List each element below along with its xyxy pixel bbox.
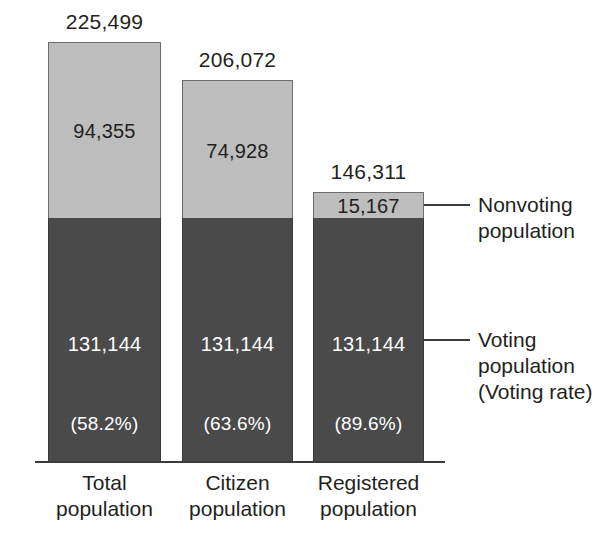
x-axis-line [35, 461, 445, 463]
bar-label-voting: 131,144 [314, 334, 423, 354]
bar-label-nonvoting: 74,928 [183, 141, 292, 161]
legend-leader-line-voting [424, 339, 470, 341]
bar-label-voting: 131,144 [183, 334, 292, 354]
legend-leader-line-nonvoting [424, 204, 470, 206]
bar-label-voting-rate: (58.2%) [49, 414, 160, 433]
stacked-bar-chart: 94,355 131,144 (58.2%) 225,499 Total pop… [0, 0, 616, 550]
bar-segment-voting[interactable]: 131,144 (58.2%) [48, 218, 161, 462]
category-label-line2: population [166, 496, 309, 522]
bar-segment-nonvoting[interactable]: 74,928 [182, 80, 293, 218]
bar-label-voting: 131,144 [49, 334, 160, 354]
bar-label-total: 146,311 [313, 161, 424, 182]
bar-segment-nonvoting[interactable]: 15,167 [313, 192, 424, 218]
bar-label-total: 225,499 [48, 11, 161, 32]
category-label-citizen-population: Citizen population [166, 470, 309, 522]
category-label-total-population: Total population [33, 470, 176, 522]
legend-label-voting-line3: (Voting rate) [478, 379, 592, 405]
bar-label-nonvoting: 15,167 [314, 196, 423, 216]
bar-label-total: 206,072 [182, 49, 293, 70]
bar-label-nonvoting: 94,355 [49, 121, 160, 141]
category-label-line2: population [33, 496, 176, 522]
bar-segment-voting[interactable]: 131,144 (63.6%) [182, 218, 293, 462]
category-label-line2: population [297, 496, 440, 522]
legend-label-nonvoting-line2: population [478, 218, 575, 244]
legend-label-voting-line2: population [478, 353, 592, 379]
legend-label-nonvoting-line1: Nonvoting [478, 192, 575, 218]
legend-label-voting: Voting population (Voting rate) [478, 327, 592, 405]
bar-label-voting-rate: (63.6%) [183, 414, 292, 433]
bar-registered-population[interactable]: 15,167 131,144 (89.6%) [313, 192, 424, 462]
category-label-line1: Total [33, 470, 176, 496]
bar-segment-voting[interactable]: 131,144 (89.6%) [313, 218, 424, 462]
bar-citizen-population[interactable]: 74,928 131,144 (63.6%) [182, 80, 293, 462]
legend-label-voting-line1: Voting [478, 327, 592, 353]
legend-label-nonvoting: Nonvoting population [478, 192, 575, 244]
bar-label-voting-rate: (89.6%) [314, 414, 423, 433]
category-label-registered-population: Registered population [297, 470, 440, 522]
category-label-line1: Registered [297, 470, 440, 496]
category-label-line1: Citizen [166, 470, 309, 496]
bar-segment-nonvoting[interactable]: 94,355 [48, 42, 161, 218]
bar-total-population[interactable]: 94,355 131,144 (58.2%) [48, 42, 161, 462]
